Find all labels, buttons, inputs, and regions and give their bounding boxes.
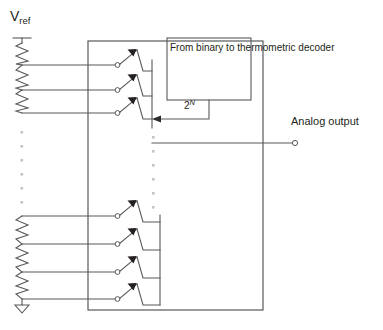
resistor-upper-3	[16, 90, 28, 113]
decoder-bus-arrowhead	[152, 116, 161, 123]
decoder-bus-arrow	[157, 100, 209, 119]
switch-lower-4[interactable]	[119, 284, 160, 305]
bus-width-exponent: N	[190, 98, 195, 107]
switch-terminals	[115, 63, 120, 302]
switch-lower-1[interactable]	[119, 201, 160, 222]
resistor-upper-1	[16, 43, 28, 65]
switch-upper-3[interactable]	[119, 98, 152, 119]
vref-label: Vref	[10, 8, 30, 25]
circuit-diagram-canvas: Vref From binary to thermometric decoder…	[0, 0, 383, 330]
resistor-upper-2	[16, 65, 28, 90]
resistor-lower-2	[16, 244, 28, 272]
switch-upper-1[interactable]	[119, 50, 152, 71]
switch-lower-2[interactable]	[119, 229, 160, 250]
outer-boundary-box	[88, 41, 263, 310]
decoder-block-label: From binary to thermometric decoder	[170, 42, 248, 54]
switch-blade-arrowheads	[128, 49, 137, 291]
switch-lower-3[interactable]	[119, 257, 160, 278]
bus-width-base: 2	[184, 100, 190, 111]
analog-output-terminal	[292, 140, 297, 145]
vref-label-text: V	[10, 8, 19, 24]
vref-terminal	[13, 38, 31, 43]
vref-label-subscript: ref	[19, 15, 30, 26]
vertical-ellipsis-switches	[152, 136, 155, 209]
vertical-ellipsis-ladder	[21, 131, 24, 204]
resistor-lower-3	[16, 272, 28, 299]
switch-upper-2[interactable]	[119, 75, 152, 96]
analog-output-label: Analog output	[291, 115, 359, 128]
bus-width-label: 2N	[184, 100, 195, 112]
resistor-lower-1	[16, 216, 28, 244]
ground-symbol	[15, 305, 29, 313]
